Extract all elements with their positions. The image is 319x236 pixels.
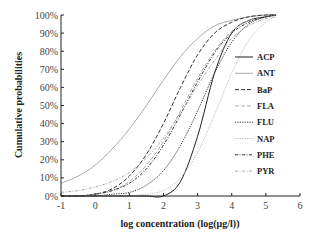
y-tick-label: 70% [40,64,58,75]
x-tick-label: 3 [195,200,200,211]
x-tick-label: 0 [93,200,98,211]
x-tick-label: 6 [298,200,303,211]
legend-label-ant: ANT [257,68,275,78]
y-tick-label: 10% [40,172,58,183]
y-tick-label: 60% [40,82,58,93]
y-tick-label: 0% [45,191,58,202]
legend-label-acp: ACP [257,52,274,62]
y-tick-label: 30% [40,136,58,147]
series-line-nap [61,17,276,196]
y-tick-label: 50% [40,100,58,111]
legend-label-fla: FLA [257,101,275,111]
y-tick-label: 90% [40,28,58,39]
x-axis-title: log concentration (log(μg/l)) [121,218,240,230]
cumulative-probability-chart: -101234560%10%20%30%40%50%60%70%80%90%10… [0,0,319,236]
y-tick-label: 100% [35,10,58,21]
x-tick-label: 5 [263,200,268,211]
series-line-ant [61,15,276,183]
x-tick-label: -1 [57,200,65,211]
legend-label-flu: FLU [257,117,274,127]
x-tick-label: 1 [127,200,132,211]
y-tick-label: 20% [40,154,58,165]
y-axis-title: Cumulative probabilities [13,52,24,158]
legend-label-phe: PHE [257,150,275,160]
y-tick-label: 80% [40,46,58,57]
x-tick-label: 2 [161,200,166,211]
legend-label-nap: NAP [257,134,274,144]
legend-label-bap: BaP [257,85,272,95]
legend-label-pyr: PYR [257,166,275,176]
y-tick-label: 40% [40,118,58,129]
legend: ACPANTBaPFLAFLUNAPPHEPYR [235,52,275,176]
x-tick-label: 4 [229,200,234,211]
